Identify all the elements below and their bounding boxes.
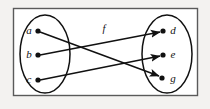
vertex-label-a: a <box>26 24 32 36</box>
point-dot-d <box>160 28 165 33</box>
vertex-label-b: b <box>26 48 32 60</box>
point-dot-e <box>160 52 165 57</box>
diagram-canvas: a b c d e g f <box>0 0 210 109</box>
function-diagram-figure: a b c d e g f <box>0 0 210 109</box>
point-dot-c <box>35 77 40 82</box>
vertex-label-d: d <box>170 24 176 36</box>
point-dot-b <box>35 52 40 57</box>
vertex-label-g: g <box>170 72 176 84</box>
vertex-label-c: c <box>27 73 32 85</box>
point-dot-g <box>159 75 164 80</box>
vertex-label-e: e <box>171 48 176 60</box>
point-dot-a <box>35 28 40 33</box>
